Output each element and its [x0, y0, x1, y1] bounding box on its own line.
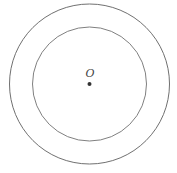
concentric-circles-diagram: O: [0, 0, 177, 173]
center-point: [88, 82, 92, 86]
center-label: O: [85, 67, 94, 80]
